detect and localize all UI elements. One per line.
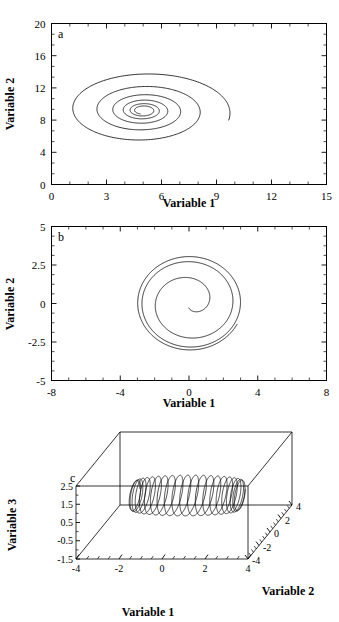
panel-a-frame bbox=[52, 24, 327, 185]
tick-label: 2.5 bbox=[32, 259, 46, 271]
tick-label: -1.5 bbox=[57, 554, 73, 565]
tick-label: 16 bbox=[35, 50, 47, 62]
panel-c: -1.5-0.50.51.52.5-4-2024-4-2024 c Variab… bbox=[0, 410, 339, 622]
panel-b-label: b bbox=[58, 230, 64, 244]
tick-label: 4 bbox=[246, 563, 251, 574]
panel-a-yaxis-label: Variable 2 bbox=[3, 78, 17, 131]
tick-label: -4 bbox=[116, 386, 126, 398]
panel-b-xaxis-label: Variable 1 bbox=[163, 396, 216, 410]
tick-label: 2 bbox=[203, 563, 208, 574]
tick-label: -2 bbox=[263, 542, 271, 553]
panel-b-trajectory bbox=[138, 257, 241, 350]
panel-b-frame bbox=[52, 227, 327, 381]
tick-label: 0.5 bbox=[61, 517, 74, 528]
panel-c-trajectory bbox=[129, 475, 245, 516]
panel-c-yaxis-label: Variable 3 bbox=[5, 499, 19, 552]
tick-label: -2 bbox=[115, 563, 123, 574]
tick-label: 1.5 bbox=[61, 499, 74, 510]
panel-a-label: a bbox=[58, 27, 64, 41]
panel-c-ticks bbox=[76, 486, 292, 559]
tick-label: 3 bbox=[104, 190, 110, 202]
tick-label: 8 bbox=[40, 114, 46, 126]
panel-c-label: c bbox=[70, 471, 75, 485]
tick-label: -8 bbox=[47, 386, 57, 398]
panel-a-ticklabels-y: 048121620 bbox=[35, 18, 47, 191]
figure-container: 03691215 048121620 a Variable 1 Variable… bbox=[0, 0, 339, 622]
panel-b: -8-4048 -5-2.502.55 b Variable 1 Variabl… bbox=[0, 207, 339, 412]
tick-label: -5 bbox=[36, 375, 46, 387]
tick-label: 4 bbox=[296, 501, 301, 512]
tick-label: 0 bbox=[40, 179, 46, 191]
panel-b-ticklabels-y: -5-2.502.55 bbox=[28, 221, 46, 387]
tick-label: 8 bbox=[324, 386, 330, 398]
tick-label: 0 bbox=[40, 298, 46, 310]
tick-label: 0 bbox=[49, 190, 55, 202]
panel-c-xaxis-label: Variable 1 bbox=[122, 605, 175, 619]
tick-label: 0 bbox=[160, 563, 165, 574]
tick-label: 4 bbox=[255, 386, 261, 398]
panel-a-ticks bbox=[52, 24, 327, 185]
panel-a-trajectory bbox=[73, 74, 230, 140]
panel-c-box bbox=[76, 432, 292, 559]
panel-c-zaxis-label: Variable 2 bbox=[262, 584, 315, 598]
tick-label: 5 bbox=[40, 221, 46, 233]
tick-label: 12 bbox=[35, 82, 46, 94]
tick-label: 2 bbox=[285, 515, 290, 526]
panel-c-ticklabels: -1.5-0.50.51.52.5-4-2024-4-2024 bbox=[57, 481, 301, 575]
tick-label: -4 bbox=[72, 563, 80, 574]
tick-label: 20 bbox=[35, 18, 47, 30]
tick-label: -4 bbox=[252, 555, 260, 566]
tick-label: 12 bbox=[266, 190, 277, 202]
tick-label: 0 bbox=[274, 528, 279, 539]
tick-label: 4 bbox=[40, 146, 46, 158]
tick-label: -0.5 bbox=[57, 535, 73, 546]
panel-a: 03691215 048121620 a Variable 1 Variable… bbox=[0, 0, 339, 210]
panel-b-yaxis-label: Variable 2 bbox=[3, 278, 17, 331]
panel-b-ticks bbox=[52, 227, 327, 381]
tick-label: -2.5 bbox=[28, 336, 46, 348]
tick-label: 15 bbox=[321, 190, 333, 202]
